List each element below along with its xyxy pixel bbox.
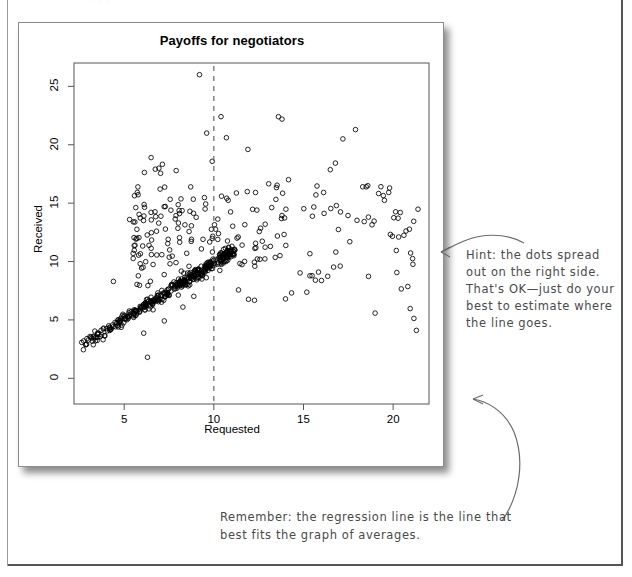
scatter-plot-canvas — [19, 23, 445, 468]
cropped-header-text: · · · · · · · — [60, 0, 530, 5]
page-root: · · · · · · · Payoffs for negotiators 51… — [0, 0, 632, 577]
figure-card: Payoffs for negotiators 5101520051015202… — [18, 22, 444, 467]
y-tick-label: 15 — [48, 189, 60, 215]
page-border-bottom — [8, 564, 622, 566]
remember-arrow-head — [473, 395, 483, 404]
x-axis-label: Requested — [19, 423, 445, 435]
page-border-left — [7, 0, 8, 566]
y-axis-label: Received — [32, 184, 44, 274]
page-border-right — [621, 0, 623, 566]
remember-note: Remember: the regression line is the lin… — [220, 508, 520, 544]
y-tick-label: 10 — [48, 248, 60, 274]
hint-note: Hint: the dots spread out on the right s… — [466, 247, 616, 332]
remember-arrow-line — [473, 399, 520, 521]
y-tick-label: 0 — [48, 364, 60, 390]
y-tick-label: 25 — [48, 72, 60, 98]
y-tick-label: 5 — [48, 306, 60, 332]
y-tick-label: 20 — [48, 131, 60, 157]
